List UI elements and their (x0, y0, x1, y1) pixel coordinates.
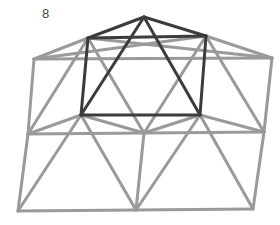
light-edge-inner_bottom_right-bottom_right (200, 115, 253, 209)
dark-edge-inner_top_right-inner_bottom_right (200, 36, 206, 115)
polyhedron-wireframe-diagram (0, 0, 280, 225)
light-edge-outer_top_right-mid_right (264, 58, 272, 132)
light-edge-mid_left-mid_right (28, 132, 264, 134)
light-edge-outer_top_left-outer_top_right (34, 58, 272, 59)
dark-edge-inner_top_left-inner_top_right (88, 36, 206, 38)
light-edge-mid_right-bottom_right (253, 132, 264, 209)
light-edges (18, 36, 272, 211)
light-edge-outer_top_left-mid_left (28, 59, 34, 134)
dark-edge-apex-inner_bottom_left (81, 17, 144, 115)
